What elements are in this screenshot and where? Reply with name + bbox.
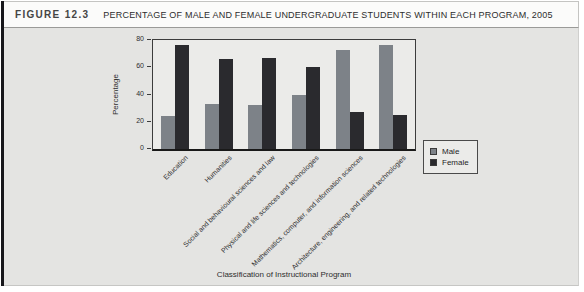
bar-male-6 (379, 45, 393, 149)
y-tick-label-60: 60 (114, 62, 144, 70)
y-tick-mark-20 (147, 121, 151, 122)
bar-female-4 (306, 67, 320, 149)
y-tick-mark-0 (147, 148, 151, 149)
bar-male-3 (248, 105, 262, 149)
plot-area (152, 39, 416, 151)
chart-panel: Percentage MaleFemale Classification of … (4, 28, 579, 286)
legend-swatch-male (430, 148, 437, 155)
bar-female-6 (393, 115, 407, 149)
figure-header: FIGURE 12.3 PERCENTAGE OF MALE AND FEMAL… (4, 1, 579, 28)
y-tick-mark-80 (147, 39, 151, 40)
legend-item-female: Female (430, 158, 469, 167)
bar-male-5 (336, 50, 350, 149)
bar-female-2 (219, 59, 233, 149)
figure-box: FIGURE 12.3 PERCENTAGE OF MALE AND FEMAL… (1, 1, 579, 286)
bar-female-1 (175, 45, 189, 149)
legend-item-male: Male (430, 147, 469, 156)
bar-male-4 (292, 95, 306, 150)
y-tick-mark-40 (147, 94, 151, 95)
legend-swatch-female (430, 159, 437, 166)
bar-female-5 (350, 112, 364, 149)
legend-label-female: Female (442, 158, 469, 167)
y-tick-label-80: 80 (114, 35, 144, 43)
bar-male-2 (205, 104, 219, 149)
legend-label-male: Male (442, 147, 459, 156)
bar-female-3 (262, 58, 276, 149)
figure-title: PERCENTAGE OF MALE AND FEMALE UNDERGRADU… (103, 10, 552, 20)
y-tick-label-20: 20 (114, 117, 144, 125)
y-tick-mark-60 (147, 66, 151, 67)
legend: MaleFemale (423, 140, 478, 174)
figure-number-label: FIGURE 12.3 (15, 9, 89, 20)
y-tick-label-0: 0 (114, 144, 144, 152)
bar-male-1 (161, 116, 175, 149)
y-tick-label-40: 40 (114, 90, 144, 98)
